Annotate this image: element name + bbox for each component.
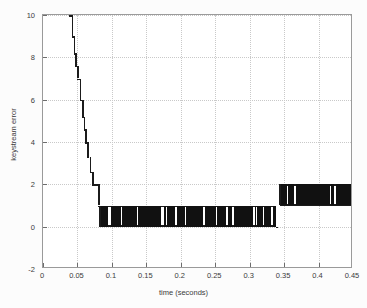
oscillation-bar-low (171, 206, 175, 227)
grid-line-horizontal (43, 15, 351, 16)
grid-line-vertical (319, 15, 320, 267)
oscillation-bar-low (275, 206, 276, 227)
oscillation-bar-high (350, 184, 351, 205)
y-tick-label: 4 (31, 138, 35, 147)
x-tick-label: 0.35 (276, 271, 291, 280)
plot-area (42, 14, 352, 268)
grid-line-vertical (146, 15, 147, 267)
step-riser (77, 66, 79, 79)
step-riser (87, 142, 89, 157)
oscillation-bar-low (187, 206, 191, 227)
x-tick-mark (319, 263, 320, 267)
y-tick-label: 10 (27, 11, 35, 20)
x-tick-label: 0.3 (243, 271, 253, 280)
y-tick-mark (43, 15, 47, 16)
x-tick-label: 0.25 (207, 271, 222, 280)
grid-line-vertical (112, 15, 113, 267)
oscillation-bar-low (159, 206, 161, 227)
step-riser (90, 157, 92, 172)
y-tick-mark (43, 100, 47, 101)
oscillation-bar-high (328, 184, 330, 205)
oscillation-bar-low (202, 206, 203, 227)
plot-inner (43, 15, 351, 267)
x-tick-label: 0.2 (175, 271, 185, 280)
x-tick-label: 0.05 (69, 271, 84, 280)
oscillation-bar-low (181, 206, 185, 227)
x-tick-mark (284, 263, 285, 267)
oscillation-bar-low (269, 206, 271, 227)
step-riser (72, 15, 74, 36)
x-tick-label: 0.4 (312, 271, 322, 280)
grid-line-vertical (250, 15, 251, 267)
y-tick-label: 0 (31, 222, 35, 231)
y-axis-title: keystream error (9, 90, 18, 180)
oscillation-bar-high (331, 184, 334, 205)
step-riser (98, 184, 100, 205)
oscillation-bar-high (288, 184, 294, 205)
y-tick-label: 6 (31, 95, 35, 104)
step-riser (82, 100, 84, 117)
y-tick-mark (43, 57, 47, 58)
step-riser (92, 172, 94, 185)
grid-line-vertical (77, 15, 78, 267)
step-riser (84, 117, 86, 130)
oscillation-bar-low (107, 206, 108, 227)
transition-tread-low (276, 227, 278, 229)
y-axis-tick-labels: 1086420-2 (0, 14, 38, 268)
step-riser (80, 79, 82, 100)
x-tick-mark (146, 263, 147, 267)
x-tick-label: 0.45 (345, 271, 360, 280)
oscillation-bar-low (244, 206, 247, 227)
step-riser (85, 129, 87, 142)
step-riser (75, 53, 77, 66)
grid-line-vertical (181, 15, 182, 267)
x-tick-mark (112, 263, 113, 267)
grid-line-horizontal (43, 57, 351, 58)
y-tick-label: 2 (31, 180, 35, 189)
oscillation-bar-low (228, 206, 231, 227)
oscillation-bar-low (213, 206, 216, 227)
grid-line-vertical (215, 15, 216, 267)
transition-riser-low (99, 206, 101, 227)
x-tick-mark (77, 263, 78, 267)
x-tick-mark (215, 263, 216, 267)
y-tick-mark (43, 142, 47, 143)
x-tick-mark (250, 263, 251, 267)
y-tick-label: 8 (31, 53, 35, 62)
x-tick-mark (43, 263, 44, 267)
oscillation-bar-low (255, 206, 256, 227)
y-tick-label: -2 (28, 265, 35, 274)
oscillation-bar-high (300, 184, 307, 205)
oscillation-bar-low (251, 206, 253, 227)
y-tick-mark (43, 184, 47, 185)
transition-riser-high (279, 184, 281, 205)
step-riser (74, 36, 76, 53)
x-tick-mark (181, 263, 182, 267)
grid-line-horizontal (43, 100, 351, 101)
oscillation-bar-high (285, 184, 287, 205)
x-tick-label: 0 (40, 271, 44, 280)
oscillation-bar-low (261, 206, 263, 227)
oscillation-bar-high (310, 184, 316, 205)
y-tick-mark (43, 227, 47, 228)
grid-line-vertical (284, 15, 285, 267)
x-axis-title: time (seconds) (0, 288, 367, 297)
oscillation-bar-low (225, 206, 226, 227)
x-axis-tick-labels: 00.050.10.150.20.250.30.350.40.45 (42, 271, 352, 283)
grid-line-horizontal (43, 142, 351, 143)
x-tick-label: 0.15 (138, 271, 153, 280)
chart-figure: 1086420-2 00.050.10.150.20.250.30.350.40… (0, 0, 367, 308)
x-tick-label: 0.1 (106, 271, 116, 280)
